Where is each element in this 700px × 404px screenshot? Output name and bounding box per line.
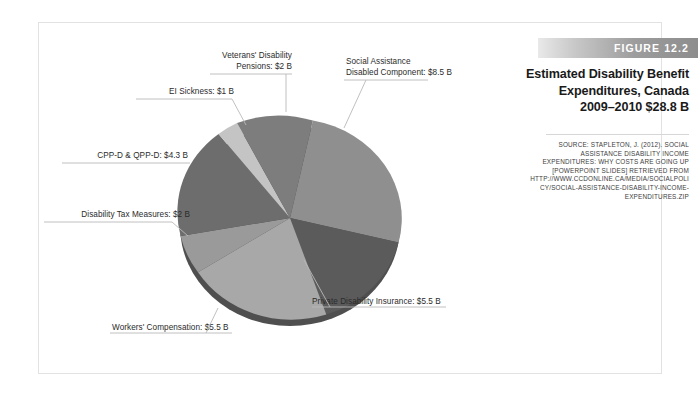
callout-disability-tax-line1: Disability Tax Measures: $2 B (6, 209, 190, 220)
callout-social-assistance: Social Assistance Disabled Component: $8… (346, 56, 452, 78)
leader-line-private-insurance (290, 260, 450, 310)
figure-sidebar: FIGURE 12.2 Estimated Disability Benefit… (516, 24, 698, 374)
callout-social-assistance-line2: Disabled Component: $8.5 B (346, 67, 452, 78)
leader-line-disability-tax (44, 220, 190, 240)
leader-line-ei-sickness (136, 97, 248, 131)
pie-chart-area: Social Assistance Disabled Component: $8… (40, 24, 510, 372)
callout-ei-sickness-line1: EI Sickness: $1 B (88, 86, 234, 97)
source-divider (546, 134, 689, 135)
figure-number-label: FIGURE 12.2 (614, 42, 689, 54)
callout-veterans-line1: Veterans' Disability (160, 50, 292, 61)
callout-veterans-disability-pensions: Veterans' Disability Pensions: $2 B (160, 50, 292, 72)
callout-cpp-qpp-line1: CPP-D & QPP-D: $4.3 B (40, 150, 188, 161)
leader-line-social-assistance (340, 78, 430, 144)
figure-source-citation: SOURCE: STAPLETON, J. (2012). SOCIAL ASS… (530, 141, 689, 201)
leader-line-workers-comp (106, 314, 238, 336)
callout-cpp-qpp: CPP-D & QPP-D: $4.3 B (40, 150, 188, 161)
callout-disability-tax-measures: Disability Tax Measures: $2 B (6, 209, 190, 220)
callout-social-assistance-line1: Social Assistance (346, 56, 452, 67)
figure-title: Estimated Disability Benefit Expenditure… (522, 66, 689, 116)
leader-line-cpp-qpp (62, 161, 198, 175)
callout-veterans-line2: Pensions: $2 B (160, 61, 292, 72)
figure-number-banner: FIGURE 12.2 (538, 38, 698, 58)
callout-ei-sickness: EI Sickness: $1 B (88, 86, 234, 97)
figure-page: Social Assistance Disabled Component: $8… (0, 0, 700, 404)
